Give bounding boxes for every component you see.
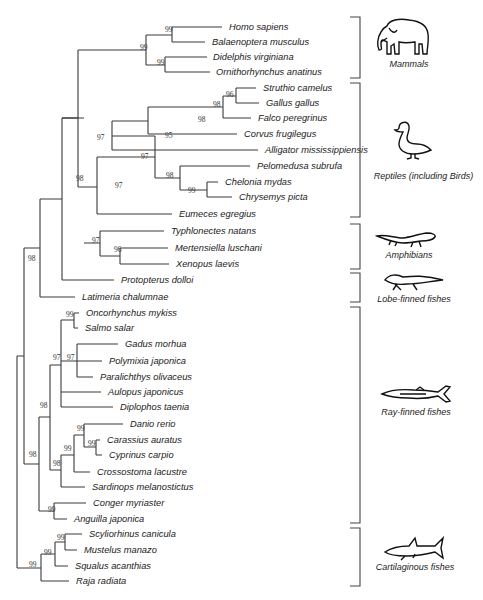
- bootstrap-value: 98: [53, 459, 61, 468]
- duck-icon: [393, 118, 433, 164]
- taxon-label: Ornithorhynchus anatinus: [216, 67, 322, 77]
- taxon-label: Salmo salar: [85, 323, 135, 333]
- taxon-label: Corvus frugilegus: [244, 129, 317, 139]
- taxon-label: Cyprinus carpio: [109, 450, 174, 460]
- taxon-label: Scyliorhinus canicula: [89, 529, 176, 539]
- taxon-label: Gallus gallus: [266, 98, 320, 108]
- bootstrap-value: 97: [141, 152, 149, 161]
- group-label-ray-finned: Ray-finned fishes: [361, 407, 471, 417]
- bootstrap-value: 97: [115, 181, 123, 190]
- bootstrap-value: 99: [88, 439, 96, 448]
- bootstrap-value: 98: [166, 171, 174, 180]
- bootstrap-value: 97: [92, 236, 100, 245]
- taxon-label: Struthio camelus: [263, 83, 333, 93]
- bootstrap-value: 97: [53, 353, 61, 362]
- bootstrap-value: 96: [114, 245, 122, 254]
- bootstrap-value: 98: [29, 450, 37, 459]
- taxon-label: Chrysemys picta: [239, 192, 308, 202]
- taxon-label: Gadus morhua: [125, 339, 187, 349]
- bootstrap-value: 99: [77, 424, 85, 433]
- taxon-label: Xenopus laevis: [175, 259, 239, 269]
- taxon-label: Sardinops melanostictus: [92, 482, 194, 492]
- taxon-label: Polymixia japonica: [109, 356, 186, 366]
- bootstrap-value: 99: [188, 186, 196, 195]
- taxon-label: Mertensiella luschani: [175, 243, 263, 253]
- taxon-label: Aulopus japonicus: [107, 387, 184, 397]
- taxon-label: Falco peregrinus: [258, 113, 328, 123]
- taxon-label: Anguilla japonica: [73, 514, 144, 524]
- bootstrap-value: 99: [165, 25, 173, 34]
- group-label-lobe-finned: Lobe-finned fishes: [359, 294, 469, 304]
- taxon-label: Pelomedusa subrufa: [257, 161, 342, 171]
- bootstrap-value: 97: [97, 133, 105, 142]
- taxon-label: Balaenoptera musculus: [212, 37, 310, 47]
- taxon-label: Danio rerio: [130, 419, 175, 429]
- bootstrap-value: 98: [28, 254, 36, 263]
- taxon-label: Mustelus manazo: [84, 545, 157, 555]
- bootstrap-value: 99: [64, 444, 72, 453]
- taxon-label: Carassius auratus: [107, 435, 182, 445]
- bootstrap-value: 98: [76, 174, 84, 183]
- bootstrap-value: 99: [57, 533, 65, 542]
- elephant-icon: [375, 16, 431, 62]
- group-bracket: [350, 224, 360, 269]
- taxon-label: Paralichthys olivaceus: [100, 372, 192, 382]
- bootstrap-value: 99: [140, 43, 148, 52]
- taxon-label: Diplophos taenia: [120, 402, 189, 412]
- group-bracket: [350, 528, 360, 586]
- taxon-label: Eumeces egregius: [179, 209, 256, 219]
- bootstrap-value: 98: [213, 100, 221, 109]
- bootstrap-value: 95: [165, 131, 173, 140]
- sturgeon-icon: [380, 384, 452, 408]
- group-label-cartilaginous: Cartilaginous fishes: [360, 562, 470, 572]
- taxon-label: Crossostoma lacustre: [97, 467, 187, 477]
- taxon-label: Oncorhynchus mykiss: [86, 308, 177, 318]
- bootstrap-value: 99: [44, 548, 52, 557]
- bootstrap-value: 99: [66, 310, 74, 319]
- taxon-label: Alligator mississippiensis: [264, 145, 368, 155]
- group-label-mammals: Mammals: [354, 59, 464, 69]
- bootstrap-value: 99: [29, 560, 37, 569]
- bootstrap-value: 98: [198, 115, 206, 124]
- taxon-label: Didelphis virginiana: [213, 52, 294, 62]
- group-label-reptiles: Reptiles (including Birds): [364, 171, 483, 181]
- group-bracket: [350, 307, 360, 523]
- bootstrap-value: 99: [157, 58, 165, 67]
- taxon-label: Raja radiata: [76, 576, 126, 586]
- taxon-label: Conger myriaster: [93, 498, 165, 508]
- taxon-label: Chelonia mydas: [225, 177, 292, 187]
- group-label-amphibians: Amphibians: [354, 250, 464, 260]
- bootstrap-value: 98: [40, 401, 48, 410]
- bootstrap-value: 96: [226, 90, 234, 99]
- bootstrap-value: 97: [67, 353, 75, 362]
- bootstrap-value: 99: [48, 505, 56, 514]
- taxon-label: Homo sapiens: [229, 22, 289, 32]
- taxon-label: Latimeria chalumnae: [82, 292, 168, 302]
- taxon-label: Typhlonectes natans: [171, 226, 256, 236]
- taxon-label: Squalus acanthias: [75, 561, 151, 571]
- taxon-label: Protopterus dolloi: [121, 275, 194, 285]
